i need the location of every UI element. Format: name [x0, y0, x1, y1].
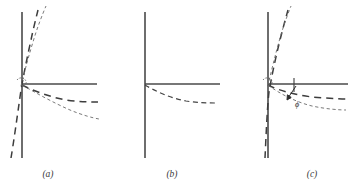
panel-a-falling-long-dash-curve [22, 85, 98, 102]
figure-container: ϕ (a) (b) (c) [0, 0, 352, 187]
panel-b-decay-curve [145, 85, 218, 103]
panel-c-caption: (c) [307, 169, 318, 179]
panel-c-phi-label: ϕ [295, 100, 299, 109]
panel-c [263, 6, 348, 158]
panel-b-caption: (b) [166, 169, 177, 179]
panel-c-rising-fine-dash-curve [268, 6, 291, 86]
panel-c-falling-long-dash-curve [268, 85, 346, 99]
panel-b [145, 12, 220, 158]
panel-c-falling-fine-dash-curve [268, 85, 346, 110]
panel-c-angle-arrow-head [287, 95, 291, 100]
figure-canvas [0, 0, 352, 187]
panel-a [11, 6, 99, 158]
panel-a-caption: (a) [42, 169, 53, 179]
panel-a-rising-fine-dash-curve [21, 6, 46, 86]
